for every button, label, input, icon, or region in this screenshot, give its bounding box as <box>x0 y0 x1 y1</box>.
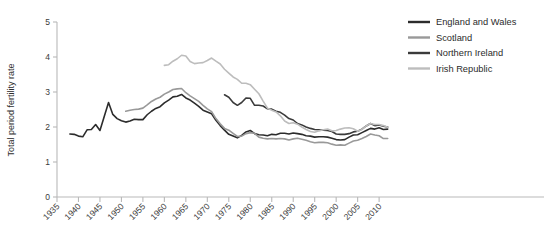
y-tick-label-3: 3 <box>45 87 50 97</box>
legend-label-0[interactable]: England and Wales <box>436 17 517 27</box>
x-tick-label-1935: 1935 <box>41 201 62 222</box>
y-axis: 012345 <box>45 17 57 202</box>
series-lines <box>70 55 388 145</box>
y-tick-label-5: 5 <box>45 17 50 27</box>
y-tick-label-2: 2 <box>45 122 50 132</box>
y-tick-label-4: 4 <box>45 52 50 62</box>
y-axis-title: Total period fertility rate <box>6 63 16 156</box>
x-tick-label-1945: 1945 <box>84 201 105 222</box>
legend-label-3[interactable]: Irish Republic <box>436 64 493 74</box>
chart-canvas: 012345 193519401945195019551960196519701… <box>0 0 544 251</box>
x-tick-label-1990: 1990 <box>277 201 298 222</box>
x-tick-label-2000: 2000 <box>320 201 341 222</box>
x-tick-label-2010: 2010 <box>363 201 384 222</box>
x-tick-label-1940: 1940 <box>62 201 83 222</box>
y-tick-label-0: 0 <box>45 192 50 202</box>
x-tick-label-1975: 1975 <box>213 201 234 222</box>
x-tick-label-1965: 1965 <box>170 201 191 222</box>
x-tick-label-2005: 2005 <box>342 201 363 222</box>
x-tick-label-1970: 1970 <box>191 201 212 222</box>
x-tick-label-1980: 1980 <box>234 201 255 222</box>
y-tick-label-1: 1 <box>45 157 50 167</box>
chart-legend: England and WalesScotlandNorthern Irelan… <box>408 17 517 74</box>
x-tick-label-1960: 1960 <box>148 201 169 222</box>
fertility-rate-chart: 012345 193519401945195019551960196519701… <box>0 0 544 251</box>
legend-label-2[interactable]: Northern Ireland <box>436 48 503 58</box>
x-tick-label-1985: 1985 <box>256 201 277 222</box>
x-tick-label-1995: 1995 <box>299 201 320 222</box>
x-tick-label-1955: 1955 <box>127 201 148 222</box>
legend-label-1[interactable]: Scotland <box>436 33 472 43</box>
series-line-3 <box>164 55 387 132</box>
series-line-0 <box>70 94 388 140</box>
x-axis: 1935194019451950195519601965197019751980… <box>41 197 544 222</box>
x-tick-label-1950: 1950 <box>105 201 126 222</box>
